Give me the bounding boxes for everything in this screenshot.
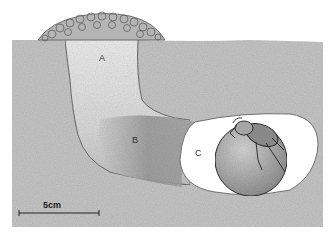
- scale-bar-label: 5cm: [43, 200, 61, 210]
- label-b: B: [132, 135, 138, 145]
- burrow-diagram: A B C 5cm: [0, 0, 329, 236]
- label-c: C: [195, 148, 202, 158]
- dung-mound: [38, 12, 165, 41]
- label-a: A: [99, 53, 105, 63]
